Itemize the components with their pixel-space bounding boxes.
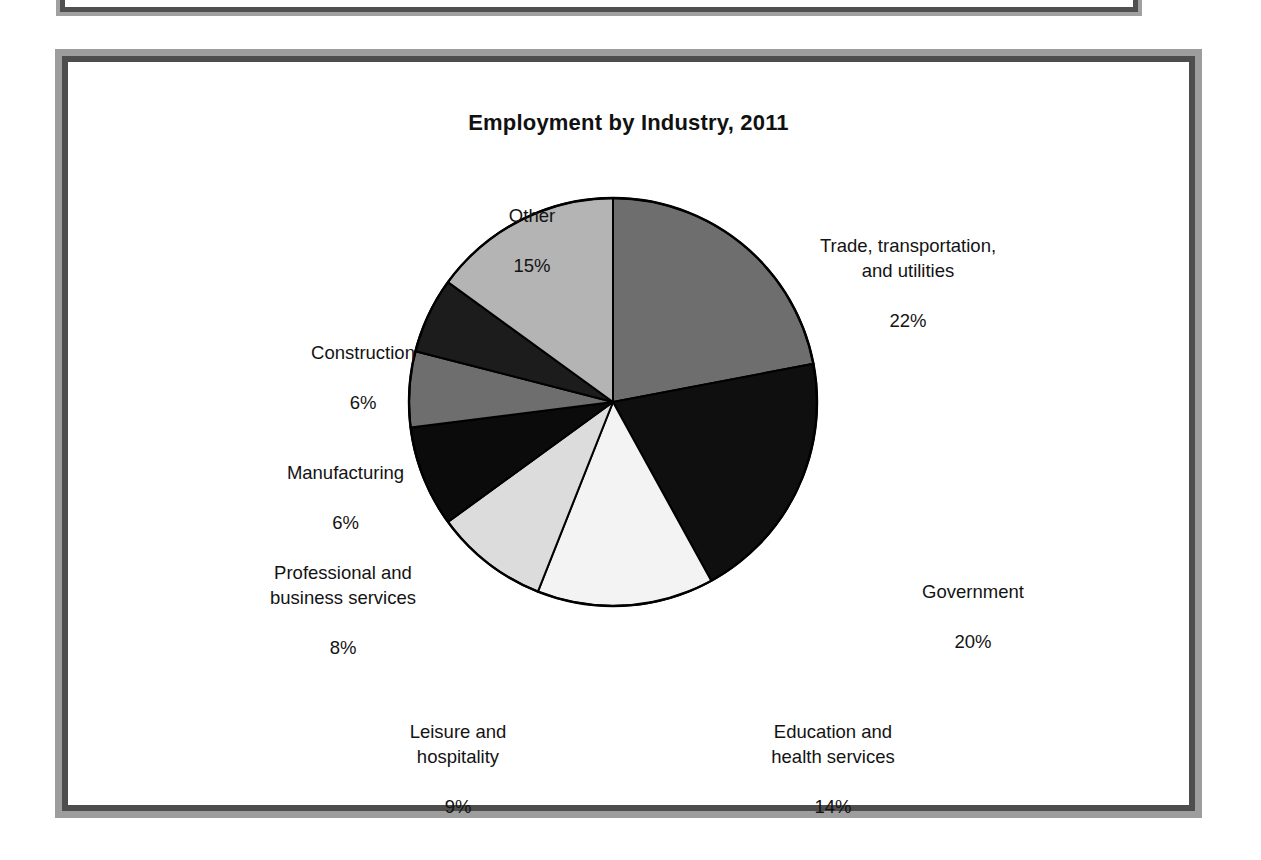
pie-label-government-percent: 20% bbox=[858, 629, 1088, 654]
pie-label-manufacturing: Manufacturing 6% bbox=[233, 435, 458, 560]
pie-label-professional-name: Professional and business services bbox=[218, 560, 468, 610]
pie-label-construction-name: Construction bbox=[253, 340, 473, 365]
pie-label-leisure-percent: 9% bbox=[343, 794, 573, 819]
pie-label-professional-percent: 8% bbox=[218, 635, 468, 660]
pie-label-construction: Construction 6% bbox=[253, 315, 473, 440]
pie-label-leisure: Leisure and hospitality 9% bbox=[343, 694, 573, 844]
top-partial-frame bbox=[60, 0, 1138, 12]
pie-label-leisure-name: Leisure and hospitality bbox=[343, 719, 573, 769]
pie-label-manufacturing-percent: 6% bbox=[233, 510, 458, 535]
pie-label-trade: Trade, transportation, and utilities 22% bbox=[768, 208, 1048, 358]
chart-title: Employment by Industry, 2011 bbox=[68, 110, 1189, 136]
pie-label-construction-percent: 6% bbox=[253, 390, 473, 415]
pie-label-government: Government 20% bbox=[858, 554, 1088, 679]
pie-label-education-percent: 14% bbox=[708, 794, 958, 819]
pie-label-other-percent: 15% bbox=[457, 253, 607, 278]
pie-label-other: Other 15% bbox=[457, 178, 607, 303]
pie-label-manufacturing-name: Manufacturing bbox=[233, 460, 458, 485]
figure-frame: Employment by Industry, 2011 Other 15% T… bbox=[62, 56, 1195, 811]
pie-label-trade-percent: 22% bbox=[768, 308, 1048, 333]
pie-label-government-name: Government bbox=[858, 579, 1088, 604]
pie-label-education: Education and health services 14% bbox=[708, 694, 958, 844]
pie-label-education-name: Education and health services bbox=[708, 719, 958, 769]
pie-chart: Employment by Industry, 2011 Other 15% T… bbox=[68, 62, 1189, 805]
pie-label-trade-name: Trade, transportation, and utilities bbox=[768, 233, 1048, 283]
pie-label-other-name: Other bbox=[457, 203, 607, 228]
